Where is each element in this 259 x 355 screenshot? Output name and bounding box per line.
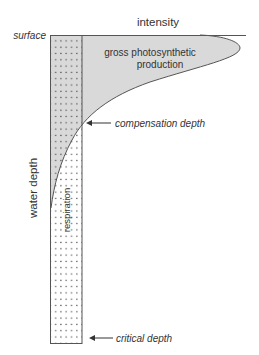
surface-label: surface xyxy=(13,30,46,41)
critical-depth-diagram: intensity surface gross photosynthetic p… xyxy=(0,0,259,355)
compensation-depth-label: compensation depth xyxy=(115,118,206,129)
compensation-arrow xyxy=(86,120,111,126)
production-label-line2: production xyxy=(137,59,184,70)
production-label-line1: gross photosynthetic xyxy=(104,47,196,58)
water-depth-label: water depth xyxy=(27,158,39,219)
intensity-label: intensity xyxy=(137,16,179,28)
critical-depth-label: critical depth xyxy=(116,333,173,344)
critical-arrow xyxy=(89,335,113,341)
respiration-label: respiration xyxy=(61,188,72,232)
